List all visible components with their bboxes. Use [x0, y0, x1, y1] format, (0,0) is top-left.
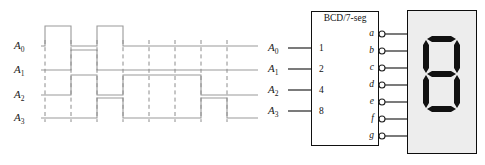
segment-d	[427, 106, 456, 112]
decoder-output-label-b: b	[360, 45, 374, 55]
segment-c	[454, 75, 460, 108]
decoder-output-label-e: e	[360, 96, 374, 106]
decoder-pin-weight-2: 2	[319, 64, 324, 74]
segment-a	[427, 36, 456, 42]
output-bubble-e	[379, 99, 385, 105]
segment-g	[427, 71, 456, 77]
signal-label-a0: A0	[14, 39, 24, 54]
signal-label-a1: A1	[14, 63, 24, 78]
decoder-input-label-a2: A2	[268, 83, 278, 98]
decoder-input-label-a3: A3	[268, 104, 278, 119]
seven-segment-display	[407, 10, 477, 154]
decoder-pin-weight-1: 1	[319, 43, 324, 53]
timing-marker-lines	[45, 40, 227, 122]
output-bubble-c	[379, 65, 385, 71]
decoder-input-label-a1: A1	[268, 62, 278, 77]
signal-label-a3: A3	[14, 111, 24, 126]
decoder-pin-weight-8: 8	[319, 106, 324, 116]
logic-figure: A0 A1 A2 A3 BCD/7-seg A0 A1 A2 A	[0, 0, 485, 165]
segment-e	[423, 75, 429, 108]
segment-f	[423, 40, 429, 73]
decoder-output-label-d: d	[360, 79, 374, 89]
output-bubble-f	[379, 116, 385, 122]
output-bubble-g	[379, 133, 385, 139]
output-inversion-bubbles	[379, 31, 385, 139]
output-bubble-d	[379, 82, 385, 88]
decoder-output-label-c: c	[360, 62, 374, 72]
signal-label-a2: A2	[14, 88, 24, 103]
timing-waveform-svg	[0, 0, 262, 165]
decoder-block-title: BCD/7-seg	[314, 13, 376, 23]
decoder-output-label-g: g	[360, 130, 374, 140]
segment-b	[454, 40, 460, 73]
decoder-output-label-a: a	[360, 28, 374, 38]
waveform-a1	[41, 50, 258, 70]
decoder-input-label-a0: A0	[268, 41, 278, 56]
decoder-output-label-f: f	[360, 113, 374, 123]
bcd-7seg-decoder: BCD/7-seg A0 A1 A2 A3 1 2 4 8 a b c d e …	[268, 0, 485, 165]
output-bubble-a	[379, 31, 385, 37]
output-bubble-b	[379, 48, 385, 54]
timing-diagram: A0 A1 A2 A3	[0, 0, 262, 165]
decoder-pin-weight-4: 4	[319, 85, 324, 95]
